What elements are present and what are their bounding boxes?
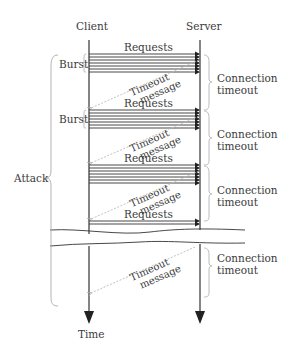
burst-2-requests bbox=[89, 110, 199, 128]
timeout-brace-1 bbox=[204, 55, 212, 110]
burst-4-requests bbox=[89, 221, 199, 224]
burst-3-requests bbox=[89, 165, 199, 183]
timeout-brace-3 bbox=[204, 166, 212, 221]
burst-label-2: Burst bbox=[59, 113, 88, 125]
server-label: Server bbox=[186, 20, 222, 32]
time-axis-label: Time bbox=[78, 328, 105, 340]
connection-timeout-label-1: Connectiontimeout bbox=[217, 72, 278, 96]
requests-label-1: Requests bbox=[124, 41, 173, 53]
attack-label: Attack bbox=[14, 172, 48, 184]
burst-1-requests bbox=[89, 54, 199, 72]
client-label: Client bbox=[76, 20, 108, 32]
server-lifeline bbox=[195, 40, 205, 324]
connection-timeout-label-2: Connectiontimeout bbox=[217, 128, 278, 152]
connection-timeout-label-3: Connectiontimeout bbox=[217, 184, 278, 208]
client-lifeline bbox=[84, 40, 94, 324]
timeout-brace-2 bbox=[204, 111, 212, 165]
connection-timeout-label-4: Connectiontimeout bbox=[217, 252, 278, 276]
burst-label-1: Burst bbox=[59, 58, 88, 70]
timeout-brace-4 bbox=[204, 248, 212, 297]
